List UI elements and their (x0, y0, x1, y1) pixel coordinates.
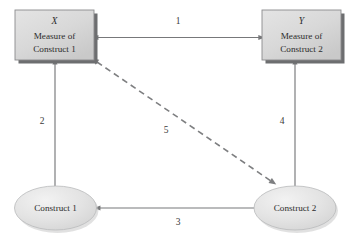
measure-x-line1: Measure of (34, 31, 77, 41)
measure-x-line2: Construct 1 (33, 44, 76, 54)
measure-y-line2: Construct 2 (280, 44, 323, 54)
measure-y-line1: Measure of (281, 31, 324, 41)
diagram-canvas: 1 2 3 4 5 Construct 1 (0, 0, 355, 243)
edge-5-line (97, 62, 271, 181)
node-measure-y[interactable]: Y Measure of Construct 2 (262, 10, 345, 64)
node-construct-2[interactable]: Construct 2 (254, 186, 338, 233)
edge-1-group: 1 (98, 16, 259, 37)
construct-2-label: Construct 2 (274, 203, 317, 213)
edge-3-group: 3 (100, 208, 257, 227)
edge-1-label: 1 (176, 16, 181, 26)
edge-5-group: 5 (97, 62, 271, 181)
edge-3-label: 3 (176, 217, 181, 227)
node-measure-x[interactable]: X Measure of Construct 1 (15, 10, 98, 64)
edge-5-label: 5 (164, 125, 169, 135)
edge-4-label: 4 (280, 116, 285, 126)
edge-2-group: 2 (40, 64, 55, 191)
construct-1-label: Construct 1 (34, 203, 77, 213)
edge-2-label: 2 (40, 116, 45, 126)
node-construct-1[interactable]: Construct 1 (15, 186, 99, 233)
diagram-svg: 1 2 3 4 5 Construct 1 (0, 0, 355, 243)
measure-x-variable: X (51, 15, 59, 26)
edge-4-group: 4 (280, 64, 295, 191)
